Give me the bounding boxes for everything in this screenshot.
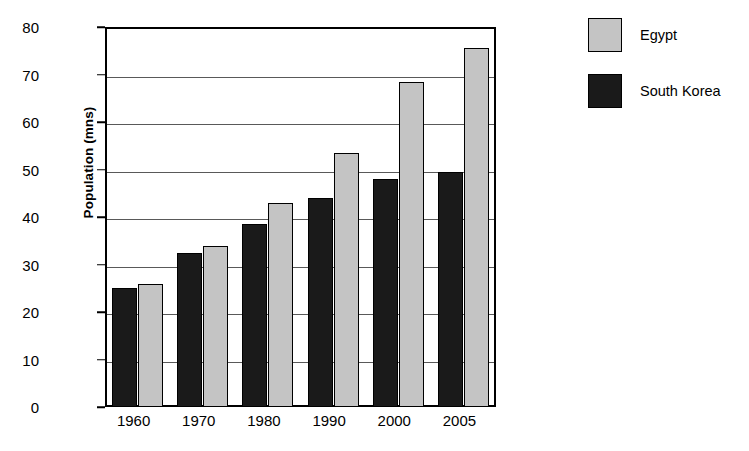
y-axis-tick-label: 30 [22,256,39,273]
bars-layer [105,27,496,407]
y-axis-tick [97,121,105,123]
y-axis-tick-labels: 80706050403020100 [0,0,105,451]
y-axis-tick-label: 10 [22,351,39,368]
bar-south-korea-1960 [112,288,137,407]
legend-label: South Korea [640,83,721,99]
bar-egypt-1960 [138,284,163,408]
bar-egypt-1980 [268,203,293,407]
legend-label: Egypt [640,27,677,43]
bar-south-korea-1990 [308,198,333,407]
y-axis-tick-label: 50 [22,161,39,178]
chart-legend: EgyptSouth Korea [588,18,743,130]
y-axis-tick [97,406,105,408]
light-gray-square-icon [588,18,622,52]
bar-egypt-1990 [334,153,359,407]
x-axis-tick-label-2005: 2005 [443,412,476,429]
y-axis-tick-label: 0 [31,399,39,416]
x-axis-tick-label-1960: 1960 [117,412,150,429]
bar-egypt-1970 [203,246,228,408]
y-axis-tick-label: 80 [22,19,39,36]
bar-south-korea-1970 [177,253,202,407]
y-axis-tick [97,359,105,361]
bar-south-korea-1980 [242,224,267,407]
y-axis-tick [97,216,105,218]
population-bar-chart: Population (mns) 80706050403020100 19601… [0,0,749,451]
y-axis-tick [97,311,105,313]
legend-item-egypt: Egypt [588,18,743,52]
bar-egypt-2000 [399,82,424,407]
x-axis-tick-label-1980: 1980 [247,412,280,429]
x-axis-tick-label-1970: 1970 [182,412,215,429]
bar-south-korea-2005 [438,172,463,407]
x-axis-tick-labels: 196019701980199020002005 [105,412,496,442]
legend-item-south-korea: South Korea [588,74,743,108]
black-square-icon [588,74,622,108]
y-axis-tick [97,264,105,266]
bar-egypt-2005 [464,48,489,407]
x-axis-tick-label-1990: 1990 [312,412,345,429]
y-axis-tick-label: 40 [22,209,39,226]
y-axis-tick-label: 70 [22,66,39,83]
y-axis-tick-label: 60 [22,114,39,131]
y-axis-tick-label: 20 [22,304,39,321]
y-axis-tick [97,169,105,171]
x-axis-tick-label-2000: 2000 [378,412,411,429]
y-axis-tick [97,26,105,28]
y-axis-tick [97,74,105,76]
bar-south-korea-2000 [373,179,398,407]
